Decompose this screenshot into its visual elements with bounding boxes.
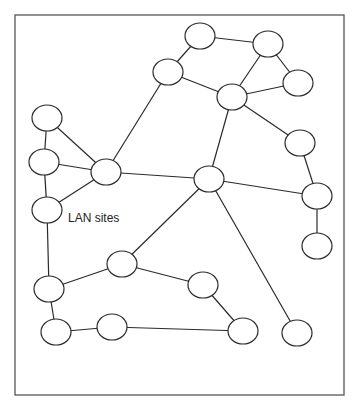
lan-site-node (217, 84, 247, 110)
link-edge (209, 179, 297, 333)
lan-site-node (302, 183, 332, 209)
lan-site-node (282, 320, 312, 346)
lan-site-node (34, 276, 64, 302)
lan-site-node (153, 59, 183, 85)
lan-site-node (185, 23, 215, 49)
edge-group (44, 36, 317, 333)
lan-site-node (41, 319, 71, 345)
lan-site-node (253, 31, 283, 57)
link-edge (112, 327, 243, 331)
network-diagram (0, 0, 359, 411)
lan-site-node (188, 272, 218, 298)
link-edge (122, 179, 209, 264)
lan-site-node (285, 130, 315, 156)
lan-site-node (302, 233, 332, 259)
lan-site-node (228, 318, 258, 344)
node-group (29, 23, 332, 346)
link-edge (209, 179, 317, 196)
lan-site-node (107, 251, 137, 277)
lan-site-node (91, 159, 121, 185)
link-edge (106, 72, 168, 172)
lan-site-node (283, 70, 313, 96)
lan-site-node (32, 105, 62, 131)
lan-site-node (97, 314, 127, 340)
lan-site-node (29, 149, 59, 175)
lan-sites-label: LAN sites (68, 211, 119, 225)
lan-site-node (194, 166, 224, 192)
lan-site-node (32, 197, 62, 223)
